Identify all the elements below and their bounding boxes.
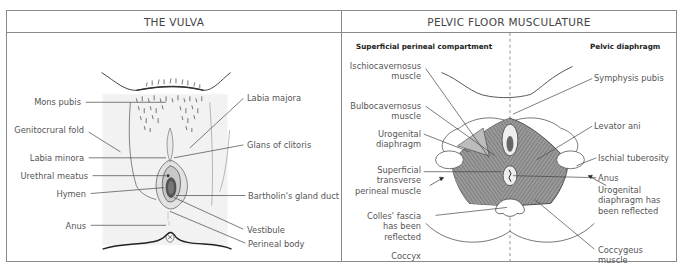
label-bartholins-gland-duct: Bartholin's gland duct [248, 191, 339, 201]
label-coccygeus-muscle: Coccygeus muscle [598, 245, 643, 266]
label-mons-pubis: Mons pubis [34, 97, 81, 107]
label-anus-pelvic: Anus [598, 173, 619, 183]
subheading-superficial-perineal: Superficial perineal compartment [356, 42, 492, 51]
pelvic-floor-panel: PELVIC FLOOR MUSCULATURE [341, 10, 677, 262]
label-urogenital-diaphragm: Urogenital diaphragm [376, 129, 421, 150]
label-anus: Anus [65, 221, 86, 231]
label-superficial-transverse-perineal-muscle: Superficial transverse perineal muscle [355, 165, 421, 196]
vulva-panel: THE VULVA [6, 10, 342, 262]
label-labia-majora: Labia majora [247, 93, 301, 103]
label-vestibule: Vestibule [247, 225, 285, 235]
label-coccyx: Coccyx [391, 251, 421, 261]
label-labia-minora: Labia minora [30, 153, 84, 163]
label-symphysis-pubis: Symphysis pubis [594, 73, 664, 83]
label-bulbocavernosus-muscle: Bulbocavernosus muscle [350, 101, 421, 122]
label-levator-ani: Levator ani [594, 121, 641, 131]
label-hymen: Hymen [56, 189, 86, 199]
label-glans-of-clitoris: Glans of clitoris [247, 140, 311, 150]
label-urogenital-diaphragm-reflected: Urogenital diaphragm has been reflected [598, 185, 660, 216]
vulva-illustration [7, 11, 341, 261]
label-perineal-body: Perineal body [248, 239, 304, 249]
label-ischial-tuberosity: Ischial tuberosity [598, 153, 669, 163]
label-urethral-meatus: Urethral meatus [21, 171, 88, 181]
label-genitocrural-fold: Genitocrural fold [14, 125, 84, 135]
label-colles-fascia: Colles' fascia has been reflected [367, 211, 421, 242]
subheading-pelvic-diaphragm: Pelvic diaphragm [590, 42, 660, 51]
label-ischiocavernosus-muscle: Ischiocavernosus muscle [350, 61, 421, 82]
